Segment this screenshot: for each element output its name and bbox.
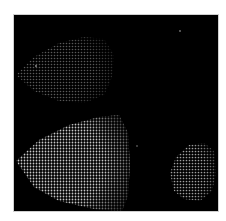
particle-clusters (16, 37, 216, 211)
stray-particle (179, 30, 181, 32)
lower-left-cluster-edge-fade (16, 115, 130, 211)
stray-particle (136, 145, 138, 147)
image-frame (14, 15, 218, 211)
particle-density-plot (14, 15, 218, 211)
stray-particle (35, 65, 37, 67)
upper-left-cluster-edge-fade (16, 37, 114, 103)
lower-right-cluster-edge-fade (170, 143, 216, 201)
